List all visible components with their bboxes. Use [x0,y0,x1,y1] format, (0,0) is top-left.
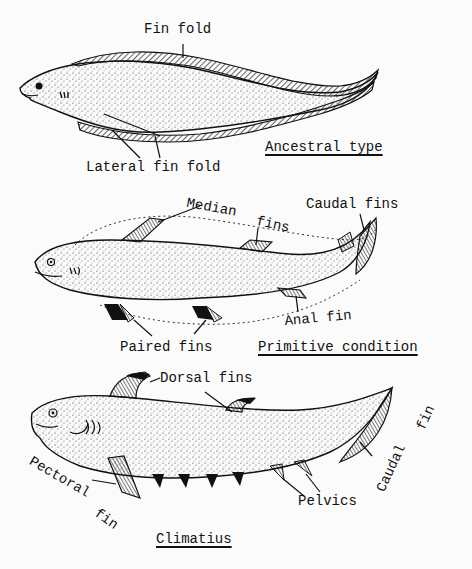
diagram-page: Fin fold Lateral fin fold Ancestral type… [0,0,472,569]
climatius-fish [31,372,392,498]
label-lateral-fin-fold: Lateral fin fold [86,160,220,174]
panel-title-ancestral: Ancestral type [265,140,383,154]
label-dorsal-fins: Dorsal fins [160,371,252,385]
label-caudal-fins: Caudal fins [306,197,398,211]
label-paired-fins: Paired fins [120,340,212,354]
label-fin-fold: Fin fold [144,22,211,36]
label-pelvics: Pelvics [298,494,357,508]
panel-title-climatius: Climatius [156,532,232,546]
panel-title-primitive: Primitive condition [258,340,418,354]
